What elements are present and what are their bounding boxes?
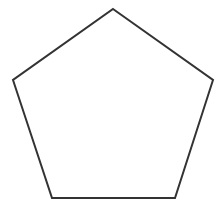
pentagon-shape	[13, 9, 213, 198]
pentagon-diagram	[0, 0, 221, 216]
